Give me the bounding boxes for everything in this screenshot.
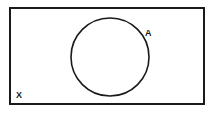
universal-set-label: X	[16, 90, 22, 100]
set-a-label: A	[145, 28, 152, 38]
venn-diagram-canvas: X A	[0, 0, 213, 113]
venn-diagram-svg: X A	[0, 0, 213, 113]
universal-set-rectangle	[10, 8, 204, 104]
